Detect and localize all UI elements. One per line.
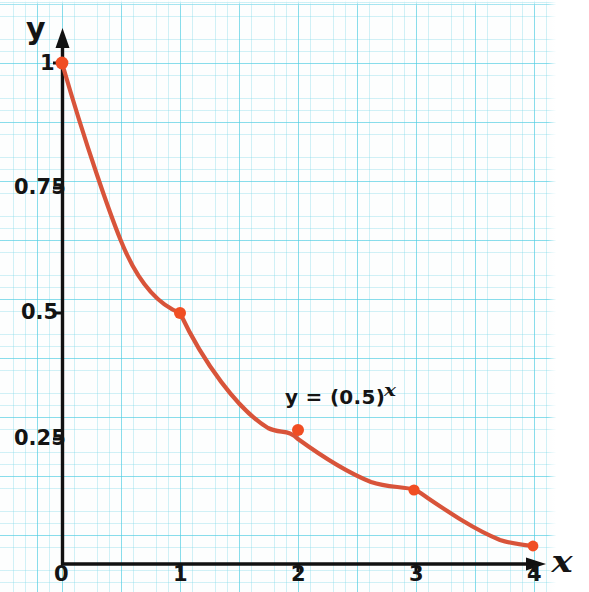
y-tick-marks (53, 63, 62, 439)
x-axis-label-glyph: x (551, 547, 572, 577)
y-tick-label-025: 0.25 (14, 428, 66, 449)
data-point-4 (528, 541, 539, 552)
equation-base: y = (0.5) (285, 385, 385, 409)
data-point-0 (56, 57, 69, 70)
x-tick-label-2: 2 (291, 564, 306, 585)
x-tick-label-1: 1 (173, 564, 188, 585)
data-point-1 (174, 307, 186, 319)
data-point-markers (56, 57, 539, 552)
x-axis-label: x (553, 547, 571, 577)
data-point-2 (292, 424, 304, 436)
y-axis-arrowhead (56, 28, 70, 48)
y-tick-label-05: 0.5 (21, 302, 58, 323)
x-tick-label-0: 0 (54, 564, 69, 585)
data-point-3 (408, 484, 419, 495)
exponential-decay-curve (62, 63, 533, 546)
y-tick-label-075: 0.75 (14, 177, 66, 198)
graph-figure: y x 1 0.75 0.5 0.25 0 1 2 3 4 y = (0.5)x (0, 0, 589, 592)
y-axis-label: y (26, 14, 46, 44)
x-tick-label-3: 3 (409, 564, 424, 585)
equation-exponent: x (384, 382, 396, 399)
equation-annotation: y = (0.5)x (285, 382, 396, 407)
x-tick-label-4: 4 (527, 564, 542, 585)
plot-area (0, 0, 589, 592)
y-tick-label-1: 1 (40, 53, 55, 74)
